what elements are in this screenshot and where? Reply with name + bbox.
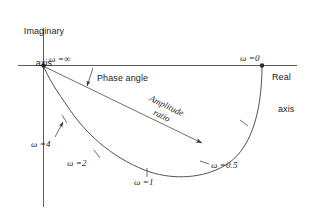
real-axis-label-line2: axis: [278, 104, 306, 115]
real-axis-label: Real axis: [272, 51, 306, 135]
omega-inf-label: ω =∞: [49, 54, 71, 64]
phase-angle-leader: [87, 68, 93, 86]
nyquist-plot-figure: Imaginary axis Real axis ω =∞ ω =0 ω =4 …: [0, 0, 310, 214]
omega-0p5-tick: [200, 161, 209, 164]
omega-0p5-label: ω =0.5: [211, 160, 238, 170]
omega-2-label: ω =2: [67, 158, 87, 168]
omega-4-tick: [62, 115, 67, 123]
omega-0-point: [260, 63, 265, 68]
real-axis-label-line1: Real: [272, 72, 306, 83]
omega-2-tick: [94, 150, 100, 158]
imaginary-axis-label: Imaginary axis: [12, 5, 76, 89]
omega-1-label: ω =1: [134, 177, 154, 187]
omega-4-label: ω =4: [31, 139, 51, 149]
imaginary-axis-label-line1: Imaginary: [12, 26, 76, 37]
phase-angle-label: Phase angle: [97, 73, 148, 83]
omega-4-leader: [55, 122, 63, 137]
curve-tick-a: [240, 120, 248, 126]
omega-0-label: ω =0: [240, 53, 260, 63]
